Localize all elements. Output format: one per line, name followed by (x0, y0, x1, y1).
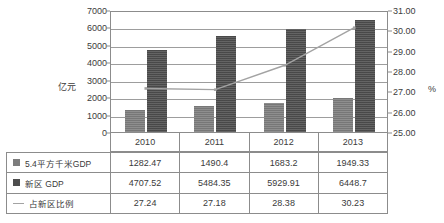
square-swatch-icon (13, 179, 20, 186)
left-axis: 01000200030004000500060007000 (74, 11, 107, 133)
right-axis-tick-mark (388, 133, 392, 134)
series-name-label: 5.4平方千米GDP (25, 157, 91, 169)
right-axis-tick-mark (388, 92, 392, 93)
right-axis-title: % (428, 84, 436, 94)
left-axis-tick-label: 2000 (87, 94, 107, 103)
right-axis-tick-label: 27.00 (393, 88, 416, 97)
left-axis-tick-label: 4000 (87, 59, 107, 68)
table-cell: 6448.7 (319, 173, 387, 192)
table-cell: 27.24 (111, 194, 180, 213)
line-series-layer (111, 12, 389, 134)
table-row: 占新区比例27.2427.1828.3830.23 (7, 194, 387, 213)
left-axis-tick-label: 1000 (87, 111, 107, 120)
data-table: 5.4平方千米GDP1282.471490.41683.21949.33新区 G… (6, 152, 388, 214)
table-cell: 5484.35 (180, 173, 249, 192)
table-cell: 1282.47 (111, 153, 180, 172)
table-row: 新区 GDP4707.525484.355929.916448.7 (7, 173, 387, 193)
legend-entry: 占新区比例 (7, 194, 111, 213)
right-axis-tick-label: 29.00 (393, 47, 416, 56)
line-series-marker (214, 88, 217, 91)
plot-area (110, 11, 388, 133)
left-axis-tick-label: 7000 (87, 7, 107, 16)
legend-entry: 新区 GDP (7, 173, 111, 192)
right-axis-tick-mark (388, 51, 392, 52)
table-cell: 1490.4 (180, 153, 249, 172)
right-axis-tick-label: 26.00 (393, 108, 416, 117)
line-series-marker (144, 87, 147, 90)
right-axis-tick-mark (388, 72, 392, 73)
table-cell: 4707.52 (111, 173, 180, 192)
left-axis-tick-label: 5000 (87, 41, 107, 50)
category-label-2010: 2010 (111, 133, 180, 151)
right-axis: 25.0026.0027.0028.0029.0030.0031.00 (393, 11, 427, 133)
category-label-2012: 2012 (250, 133, 319, 151)
table-cell: 5929.91 (250, 173, 319, 192)
right-axis-tick-label: 28.00 (393, 68, 416, 77)
left-axis-tick-label: 3000 (87, 76, 107, 85)
right-axis-tick-label: 25.00 (393, 129, 416, 138)
table-cell: 1683.2 (250, 153, 319, 172)
right-axis-tick-mark (388, 31, 392, 32)
right-axis-tick-mark (388, 112, 392, 113)
category-label-2013: 2013 (319, 133, 387, 151)
table-cell: 1949.33 (319, 153, 387, 172)
right-axis-tick-label: 30.00 (393, 27, 416, 36)
square-swatch-icon (13, 159, 20, 166)
table-cell: 27.18 (180, 194, 249, 213)
gdp-combo-chart: 01000200030004000500060007000 亿元 25.0026… (0, 0, 444, 223)
line-series-marker (353, 26, 356, 29)
category-axis-row: 2010201120122013 (110, 133, 388, 152)
line-swatch-icon (13, 200, 24, 207)
right-axis-tick-mark (388, 11, 392, 12)
line-series-path (146, 28, 355, 90)
series-name-label: 新区 GDP (25, 177, 64, 189)
line-series-marker (283, 64, 286, 67)
table-row: 5.4平方千米GDP1282.471490.41683.21949.33 (7, 153, 387, 173)
category-label-2011: 2011 (180, 133, 249, 151)
left-axis-tick-label: 6000 (87, 24, 107, 33)
left-axis-title: 亿元 (58, 82, 76, 92)
right-axis-tick-label: 31.00 (393, 7, 416, 16)
table-cell: 28.38 (250, 194, 319, 213)
table-cell: 30.23 (319, 194, 387, 213)
series-name-label: 占新区比例 (29, 197, 74, 209)
legend-entry: 5.4平方千米GDP (7, 153, 111, 172)
